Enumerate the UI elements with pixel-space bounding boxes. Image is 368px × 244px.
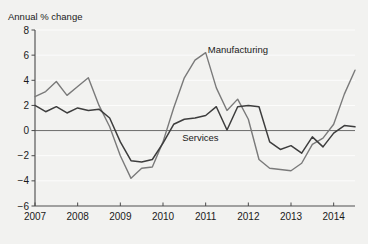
series-label-services: Services [182,132,219,143]
y-tick-label: −4 [18,175,30,186]
y-axis-title: Annual % change [8,11,82,22]
x-tick-label: 2012 [237,211,260,222]
series-label-manufacturing: Manufacturing [208,44,268,55]
y-axis [32,30,36,206]
x-axis [35,203,355,207]
x-tick-label: 2014 [323,211,346,222]
series-line-manufacturing [35,53,355,179]
y-tick-label: 0 [23,125,29,136]
y-tick-label: 6 [23,50,29,61]
series-annotations: ManufacturingServices [182,44,268,144]
x-tick-label: 2013 [280,211,303,222]
series-lines [35,53,355,179]
x-tick-label: 2011 [195,211,217,222]
y-tick-labels: 86420−2−4−6 [18,25,30,212]
x-tick-label: 2007 [24,211,47,222]
y-tick-label: 4 [23,75,29,86]
line-chart: 86420−2−4−6 2007200820092010201120122013… [0,0,368,244]
y-tick-label: −2 [18,150,30,161]
chart-container: 86420−2−4−6 2007200820092010201120122013… [0,0,368,244]
x-tick-labels: 20072008200920102011201220132014 [24,211,345,222]
x-tick-label: 2008 [67,211,90,222]
x-tick-label: 2010 [152,211,175,222]
y-tick-label: 8 [23,25,29,36]
y-tick-label: −6 [18,201,30,212]
y-tick-label: 2 [23,100,29,111]
x-tick-label: 2009 [109,211,132,222]
